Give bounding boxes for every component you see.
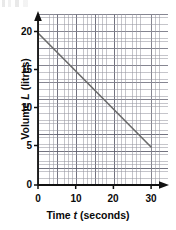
y-axis-arrow-icon (34, 11, 42, 21)
y-axis-title-post: (litres) (19, 58, 31, 93)
x-tick-label: 20 (102, 194, 124, 204)
x-axis-title-pre: Time (46, 209, 73, 221)
y-axis-title-variable: L (19, 93, 31, 99)
x-tick-label: 0 (27, 194, 49, 204)
y-tick-label: 0 (10, 180, 32, 190)
x-tick-label: 10 (65, 194, 87, 204)
x-axis-title: Time t (seconds) (0, 209, 176, 221)
x-axis-title-post: (seconds) (77, 209, 130, 221)
y-axis-title-pre: Volume (19, 100, 31, 140)
y-axis-title: Volume L (litres) (19, 24, 31, 174)
x-axis-arrow-icon (159, 181, 169, 189)
chart-figure: 20 15 10 5 0 0 10 20 30 Time t (seconds)… (0, 0, 176, 230)
x-tick-label: 30 (140, 194, 162, 204)
